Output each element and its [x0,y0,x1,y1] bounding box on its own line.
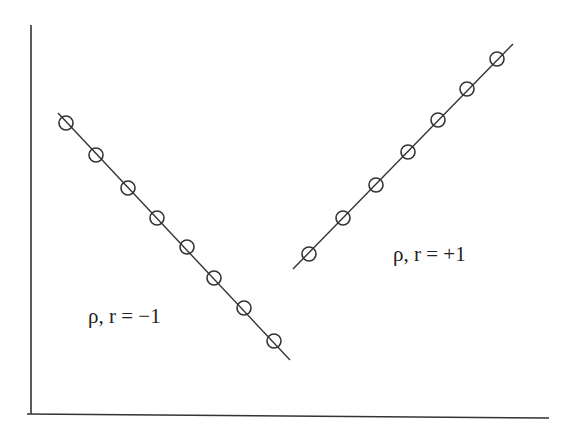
annotation-negative-correlation: ρ, r = −1 [88,306,161,327]
data-point-circle [302,247,316,261]
annotation-positive-correlation: ρ, r = +1 [393,244,466,265]
data-point-circle [89,148,103,162]
data-point-circle [237,301,251,315]
series-positive [293,44,513,269]
correlation-plot [0,0,577,435]
x-axis [27,414,549,418]
data-point-circle [460,82,474,96]
data-point-circle [180,240,194,254]
data-point-circle [267,334,281,348]
data-point-circle [490,52,504,66]
data-point-circle [59,116,73,130]
data-point-circle [207,271,221,285]
